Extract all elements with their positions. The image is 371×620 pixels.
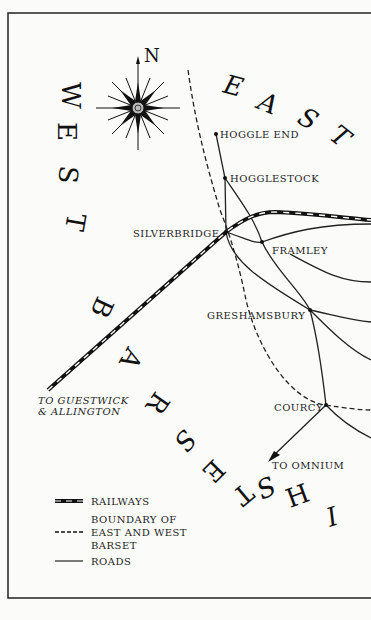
legend-railways: RAILWAYS bbox=[91, 496, 150, 507]
town-label-hogglestock: HOGGLESTOCK bbox=[230, 173, 319, 184]
svg-text:S: S bbox=[168, 424, 202, 457]
destination-label-omnium: TO OMNIUM bbox=[272, 460, 344, 471]
svg-text:E: E bbox=[196, 454, 231, 489]
svg-text:E: E bbox=[52, 122, 82, 141]
legend-boundary-line2: EAST AND WEST bbox=[91, 527, 187, 538]
svg-text:A: A bbox=[113, 342, 149, 375]
town-label-silverbridge: SILVERBRIDGE bbox=[133, 228, 219, 239]
town-label-framley: FRAMLEY bbox=[272, 245, 328, 256]
legend: RAILWAYS BOUNDARY OF EAST AND WEST BARSE… bbox=[55, 496, 187, 567]
legend-boundary-line1: BOUNDARY OF bbox=[91, 514, 177, 525]
legend-boundary-line3: BARSET bbox=[91, 540, 137, 551]
compass-north-label: N bbox=[144, 45, 160, 66]
svg-text:T: T bbox=[59, 211, 92, 234]
svg-text:E: E bbox=[219, 69, 246, 103]
destination-label-guestwick: TO GUESTWICK bbox=[38, 395, 129, 406]
town-label-courcy: COURCY bbox=[274, 402, 323, 413]
svg-text:I: I bbox=[322, 501, 343, 533]
town-label-greshamsbury: GRESHAMSBURY bbox=[207, 310, 305, 321]
svg-text:B: B bbox=[84, 292, 119, 322]
legend-roads: ROADS bbox=[91, 556, 131, 567]
barsetshire-map: N W E S T B A R S E T S H I E A S T bbox=[0, 0, 371, 620]
town-label-hoggle-end: HOGGLE END bbox=[220, 129, 299, 140]
destination-label-allington: & ALLINGTON bbox=[38, 406, 121, 417]
svg-text:A: A bbox=[252, 85, 283, 121]
svg-text:S: S bbox=[52, 164, 83, 184]
svg-text:T: T bbox=[324, 119, 357, 154]
svg-text:R: R bbox=[139, 387, 176, 421]
svg-text:H: H bbox=[282, 478, 314, 514]
svg-text:W: W bbox=[56, 82, 86, 109]
compass-rose-icon bbox=[96, 56, 180, 150]
region-label-east: E A S T bbox=[219, 69, 357, 155]
